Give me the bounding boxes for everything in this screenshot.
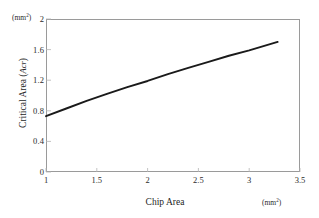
y-unit-paren: ) — [29, 13, 32, 22]
x-unit-text: (mm — [262, 198, 276, 207]
x-tick-label: 3 — [234, 176, 264, 185]
plot-area — [46, 19, 300, 172]
y-axis-unit-label: (mm2) — [12, 14, 31, 22]
x-tick-label: 1.5 — [82, 176, 112, 185]
chart-figure: 2 1.6 1.2 0.8 0.4 0 1 1.5 2 2.5 3 3.5 (m… — [0, 0, 319, 218]
x-axis-tick-labels: 1 1.5 2 2.5 3 3.5 — [0, 176, 319, 190]
y-axis-symbol: Acr — [18, 61, 28, 73]
x-tick-label: 2.5 — [183, 176, 213, 185]
y-axis-title-paren: ) — [18, 58, 28, 61]
y-unit-text: (mm — [12, 13, 26, 22]
x-axis-title: Chip Area — [110, 197, 220, 207]
x-axis-unit-label: (mm2) — [262, 199, 281, 207]
y-axis-title: Critical Area (Acr) — [18, 23, 28, 163]
y-axis-title-text: Critical Area ( — [18, 74, 28, 128]
x-unit-paren: ) — [279, 198, 282, 207]
x-tick-label: 1 — [31, 176, 61, 185]
x-tick-label: 3.5 — [285, 176, 315, 185]
x-tick-label: 2 — [133, 176, 163, 185]
